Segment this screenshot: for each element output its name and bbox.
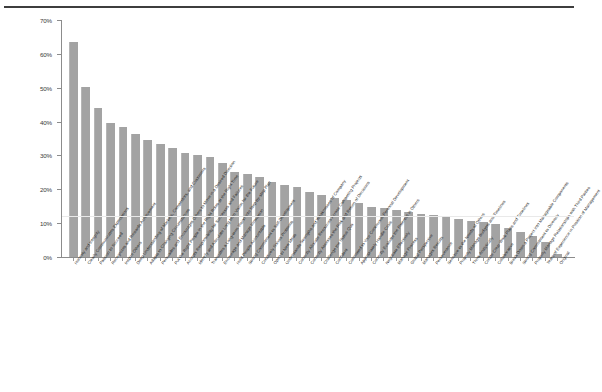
- x-axis-tick-mark: [545, 258, 546, 261]
- x-axis-tick-mark: [247, 258, 248, 261]
- x-axis-tick-mark: [557, 258, 558, 261]
- x-axis-tick-mark: [172, 258, 173, 261]
- bar: [367, 207, 376, 257]
- x-axis-tick-mark: [147, 258, 148, 261]
- bar: [467, 221, 476, 257]
- bar: [106, 123, 115, 257]
- x-axis-tick-mark: [446, 258, 447, 261]
- bar: [404, 212, 413, 257]
- bar: [429, 215, 438, 257]
- x-axis-tick-mark: [359, 258, 360, 261]
- bar: [218, 163, 227, 257]
- bar: [206, 157, 215, 257]
- x-axis-tick-mark: [197, 258, 198, 261]
- bar: [342, 200, 351, 257]
- bar: [168, 148, 177, 257]
- bar: [131, 134, 140, 257]
- bar: [417, 214, 426, 257]
- y-axis-tick-label: 40%: [40, 118, 52, 125]
- x-axis-tick-mark: [160, 258, 161, 261]
- x-axis-tick-mark: [458, 258, 459, 261]
- top-rule-divider: [4, 6, 574, 8]
- x-axis-tick-mark: [85, 258, 86, 261]
- x-axis-tick-mark: [234, 258, 235, 261]
- bar: [504, 228, 513, 257]
- x-axis-tick-mark: [334, 258, 335, 261]
- x-axis-tick-mark: [122, 258, 123, 261]
- x-axis-tick-mark: [259, 258, 260, 261]
- x-axis-tick-mark: [408, 258, 409, 261]
- x-axis-tick-mark: [209, 258, 210, 261]
- y-axis: 0%10%20%30%40%50%60%70%: [0, 0, 62, 392]
- bar: [243, 174, 252, 257]
- x-axis-tick-mark: [495, 258, 496, 261]
- x-axis-tick-mark: [421, 258, 422, 261]
- x-axis-tick-mark: [309, 258, 310, 261]
- y-axis-tick-label: 10%: [40, 220, 52, 227]
- bar: [330, 198, 339, 257]
- bar: [553, 254, 562, 257]
- bar: [355, 203, 364, 257]
- x-axis-tick-mark: [532, 258, 533, 261]
- bar: [293, 187, 302, 257]
- bar: [81, 87, 90, 257]
- x-axis-tick-mark: [483, 258, 484, 261]
- bar: [380, 208, 389, 257]
- bar: [491, 224, 500, 257]
- x-axis-tick-mark: [296, 258, 297, 261]
- y-axis-tick-label: 30%: [40, 152, 52, 159]
- x-axis-tick-mark: [470, 258, 471, 261]
- bar: [193, 155, 202, 257]
- x-axis-tick-mark: [383, 258, 384, 261]
- bar: [156, 144, 165, 257]
- y-axis-tick-label: 60%: [40, 50, 52, 57]
- bar: [479, 222, 488, 257]
- x-axis-tick-mark: [73, 258, 74, 261]
- x-axis-tick-mark: [222, 258, 223, 261]
- x-axis-tick-mark: [284, 258, 285, 261]
- bar: [541, 242, 550, 257]
- x-axis-tick-mark: [272, 258, 273, 261]
- x-axis-tick-mark: [135, 258, 136, 261]
- bar: [305, 192, 314, 257]
- x-axis-tick-mark: [185, 258, 186, 261]
- x-axis-tick-mark: [346, 258, 347, 261]
- bar: [516, 232, 525, 257]
- bar: [529, 236, 538, 257]
- bar: [69, 42, 78, 257]
- bar-series: [62, 20, 574, 257]
- bar: [119, 127, 128, 257]
- bar: [317, 195, 326, 257]
- bar: [268, 182, 277, 257]
- x-axis-tick-mark: [321, 258, 322, 261]
- gridline: [62, 216, 574, 217]
- y-axis-tick-label: 50%: [40, 84, 52, 91]
- bar: [454, 219, 463, 257]
- bar: [280, 185, 289, 257]
- x-axis-tick-mark: [110, 258, 111, 261]
- y-axis-tick-label: 20%: [40, 186, 52, 193]
- x-axis-tick-mark: [98, 258, 99, 261]
- bar: [230, 172, 239, 257]
- y-axis-tick-label: 0%: [43, 254, 52, 261]
- bar: [442, 217, 451, 257]
- x-axis-tick-mark: [396, 258, 397, 261]
- bar: [143, 140, 152, 257]
- bar: [181, 153, 190, 257]
- x-axis-tick-mark: [508, 258, 509, 261]
- bar: [94, 108, 103, 257]
- x-axis-tick-mark: [433, 258, 434, 261]
- y-axis-tick-label: 70%: [40, 17, 52, 24]
- x-axis-tick-mark: [520, 258, 521, 261]
- x-axis-line: [61, 257, 575, 258]
- x-axis-tick-mark: [371, 258, 372, 261]
